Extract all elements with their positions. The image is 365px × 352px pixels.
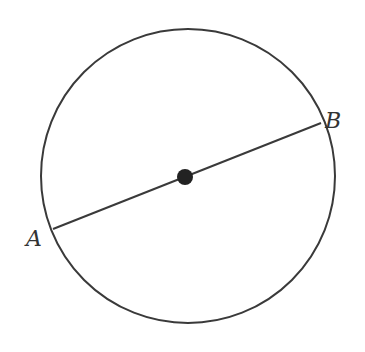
center-point [177, 169, 193, 185]
point-label-a: A [26, 228, 42, 250]
diagram-canvas: A B [0, 0, 365, 352]
point-label-b: B [325, 110, 341, 132]
diagram-svg [0, 0, 365, 352]
